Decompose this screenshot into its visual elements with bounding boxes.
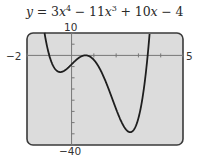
graph-screen: [0, 0, 202, 160]
screen-frame: [27, 33, 183, 145]
